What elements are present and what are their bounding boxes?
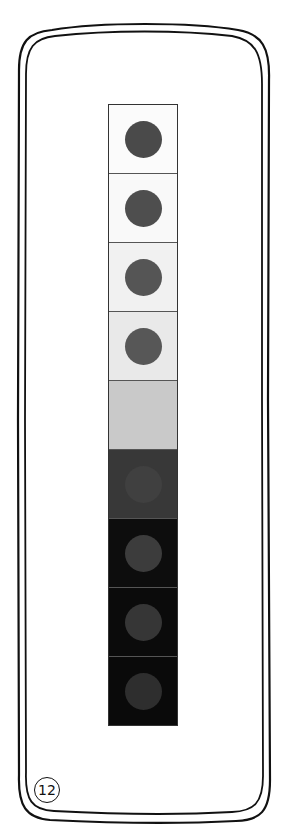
page-number-badge: 12 bbox=[34, 777, 60, 803]
value-cell-3 bbox=[109, 243, 177, 312]
page-number-text: 12 bbox=[38, 782, 56, 798]
gray-dot-icon bbox=[125, 535, 162, 572]
gray-dot-icon bbox=[125, 259, 162, 296]
value-cell-2 bbox=[109, 174, 177, 243]
gray-value-strip bbox=[108, 104, 178, 726]
gray-dot-icon bbox=[125, 121, 162, 158]
value-cell-5 bbox=[109, 381, 177, 450]
gray-dot-icon bbox=[125, 466, 162, 503]
value-cell-1 bbox=[109, 105, 177, 174]
gray-dot-icon bbox=[125, 190, 162, 227]
value-cell-6 bbox=[109, 450, 177, 519]
gray-dot-icon bbox=[125, 673, 162, 710]
value-cell-9 bbox=[109, 657, 177, 725]
gray-dot-icon bbox=[125, 604, 162, 641]
value-cell-4 bbox=[109, 312, 177, 381]
gray-dot-icon bbox=[125, 328, 162, 365]
value-cell-8 bbox=[109, 588, 177, 657]
value-cell-7 bbox=[109, 519, 177, 588]
